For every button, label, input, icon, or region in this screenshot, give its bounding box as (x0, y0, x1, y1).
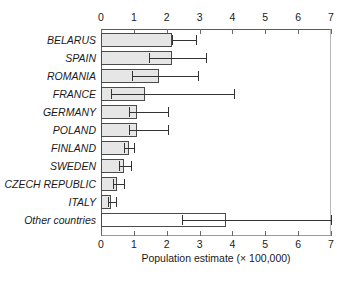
category-label-other-countries: Other countries (0, 211, 96, 229)
error-bar-line (119, 166, 131, 167)
error-bar-cap-high (331, 215, 332, 225)
error-bar-cap-high (124, 179, 125, 189)
error-bar-cap-low (113, 179, 114, 189)
error-bar-cap-low (172, 35, 173, 45)
x-tick-label-top-4: 4 (220, 11, 244, 23)
x-tick-label-top-1: 1 (122, 11, 146, 23)
category-label-romania: ROMANIA (0, 67, 96, 85)
error-bar-cap-low (129, 125, 130, 135)
error-bar-line (149, 58, 207, 59)
error-bar-line (182, 220, 332, 221)
x-tick-bottom-0 (101, 231, 102, 236)
error-bar-cap-low (119, 161, 120, 171)
error-bar-line (124, 148, 134, 149)
error-bar-cap-high (131, 161, 132, 171)
bar-row: BELARUS (0, 31, 356, 49)
error-bar-line (132, 76, 198, 77)
x-tick-label-bottom-2: 2 (155, 238, 179, 250)
category-label-germany: GERMANY (0, 103, 96, 121)
x-tick-bottom-2 (167, 231, 168, 236)
error-bar-cap-low (108, 197, 109, 207)
bar-belarus (101, 33, 172, 47)
category-label-spain: SPAIN (0, 49, 96, 67)
error-bar-cap-high (198, 71, 199, 81)
bar-row: ITALY (0, 193, 356, 211)
category-label-poland: POLAND (0, 121, 96, 139)
error-bar-line (129, 130, 168, 131)
x-tick-bottom-5 (265, 231, 266, 236)
x-axis-title: Population estimate (× 100,000) (101, 252, 331, 264)
x-tick-bottom-4 (232, 231, 233, 236)
x-tick-bottom-7 (331, 231, 332, 236)
population-estimate-bar-chart: 0011223344556677 BELARUSSPAINROMANIAFRAN… (0, 0, 356, 286)
x-tick-bottom-3 (200, 231, 201, 236)
bar-row: ROMANIA (0, 67, 356, 85)
category-label-czech-republic: CZECH REPUBLIC (0, 175, 96, 193)
bar-row: FINLAND (0, 139, 356, 157)
bar-row: CZECH REPUBLIC (0, 175, 356, 193)
x-tick-bottom-6 (298, 231, 299, 236)
bar-row: FRANCE (0, 85, 356, 103)
error-bar-line (111, 94, 234, 95)
error-bar-cap-low (129, 107, 130, 117)
category-label-italy: ITALY (0, 193, 96, 211)
error-bar-cap-high (234, 89, 235, 99)
error-bar-line (172, 40, 197, 41)
x-tick-label-bottom-7: 7 (319, 238, 343, 250)
bar-row: SPAIN (0, 49, 356, 67)
error-bar-cap-low (149, 53, 150, 63)
x-tick-label-bottom-6: 6 (286, 238, 310, 250)
error-bar-cap-low (182, 215, 183, 225)
x-tick-label-top-6: 6 (286, 11, 310, 23)
error-bar-cap-high (134, 143, 135, 153)
x-tick-label-bottom-0: 0 (89, 238, 113, 250)
category-label-france: FRANCE (0, 85, 96, 103)
error-bar-cap-high (116, 197, 117, 207)
error-bar-cap-high (168, 107, 169, 117)
x-tick-label-bottom-1: 1 (122, 238, 146, 250)
bar-row: POLAND (0, 121, 356, 139)
error-bar-cap-low (132, 71, 133, 81)
x-tick-label-top-3: 3 (188, 11, 212, 23)
x-tick-label-bottom-3: 3 (188, 238, 212, 250)
x-tick-label-top-5: 5 (253, 11, 277, 23)
x-tick-label-bottom-5: 5 (253, 238, 277, 250)
x-tick-label-top-2: 2 (155, 11, 179, 23)
error-bar-cap-high (196, 35, 197, 45)
x-tick-bottom-1 (134, 231, 135, 236)
error-bar-line (129, 112, 168, 113)
x-tick-label-bottom-4: 4 (220, 238, 244, 250)
error-bar-cap-low (124, 143, 125, 153)
x-tick-label-top-0: 0 (89, 11, 113, 23)
bar-row: SWEDEN (0, 157, 356, 175)
bar-row: GERMANY (0, 103, 356, 121)
error-bar-cap-high (168, 125, 169, 135)
category-label-belarus: BELARUS (0, 31, 96, 49)
error-bar-cap-high (206, 53, 207, 63)
error-bar-line (108, 202, 116, 203)
x-tick-label-top-7: 7 (319, 11, 343, 23)
category-label-sweden: SWEDEN (0, 157, 96, 175)
error-bar-line (113, 184, 125, 185)
bar-row: Other countries (0, 211, 356, 229)
error-bar-cap-low (111, 89, 112, 99)
category-label-finland: FINLAND (0, 139, 96, 157)
